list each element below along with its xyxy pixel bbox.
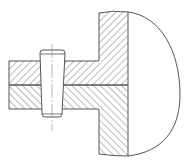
taper-pin bbox=[40, 50, 65, 117]
lower-part-section bbox=[9, 85, 128, 156]
dome-outline bbox=[128, 12, 180, 156]
upper-part-section bbox=[9, 11, 128, 85]
taper-pin-section-drawing bbox=[0, 0, 186, 166]
